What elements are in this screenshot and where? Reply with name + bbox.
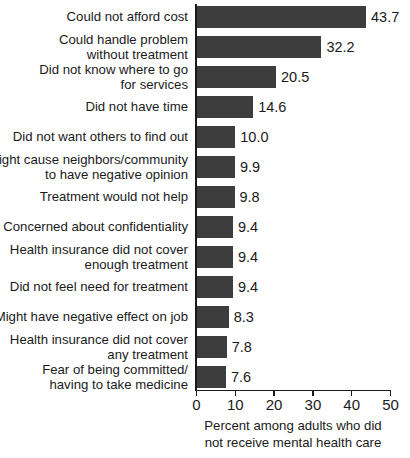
bar-category-label-line: Did not want others to find out — [13, 129, 188, 144]
bar-category-label: Did not know where to gofor services — [18, 62, 188, 92]
axis-caption-line-2: not receive mental health care — [195, 435, 391, 452]
bar — [197, 6, 367, 28]
bar-category-label-line: Fear of being committed/ — [42, 362, 188, 377]
bar-category-label: Could handle problemwithout treatment — [18, 32, 188, 62]
bar-row: Treatment would not help9.8 — [0, 182, 410, 212]
bar-row: Could handle problemwithout treatment32.… — [0, 32, 410, 62]
bar-value-label: 20.5 — [276, 62, 309, 92]
bar-category-label-line: Did not feel need for treatment — [10, 279, 188, 294]
bar-category-label-line: Treatment would not help — [40, 189, 188, 204]
bar-category-label-line: Did not have time — [85, 99, 188, 114]
bar-value-label: 8.3 — [229, 302, 254, 332]
bar-category-label-line: Might have negative effect on job — [0, 309, 188, 324]
bar-row: Health insurance did not coverenough tre… — [0, 242, 410, 272]
bar — [197, 336, 227, 358]
bar-category-label-line: Could not afford cost — [67, 9, 188, 24]
bar-row: Did not know where to gofor services20.5 — [0, 62, 410, 92]
bar — [197, 36, 322, 58]
bar-value-label: 9.4 — [233, 212, 258, 242]
bar-row: Could not afford cost43.7 — [0, 2, 410, 32]
bar-category-label-line: to have negative opinion — [45, 167, 188, 182]
bar-value-label: 9.4 — [233, 272, 258, 302]
bar-row: Did not want others to find out10.0 — [0, 122, 410, 152]
axis-caption-line-1: Percent among adults who did — [195, 418, 391, 435]
bar-value-label: 9.9 — [235, 152, 260, 182]
axis-tick-label: 50 — [382, 396, 399, 414]
bar-category-label: Did not feel need for treatment — [18, 272, 188, 302]
bar-value-label: 7.6 — [226, 362, 251, 392]
axis-tick-label: 20 — [266, 396, 283, 414]
axis-tick-label: 0 — [192, 396, 200, 414]
bar-row: Might have negative effect on job8.3 — [0, 302, 410, 332]
bar-category-label-line: enough treatment — [85, 257, 188, 272]
bar — [197, 276, 233, 298]
bar — [197, 66, 277, 88]
bar-category-label: Health insurance did not coverany treatm… — [18, 332, 188, 362]
bar-category-label-line: Might cause neighbors/community — [0, 152, 188, 167]
bar-row: Did not have time14.6 — [0, 92, 410, 122]
bar-category-label-line: any treatment — [107, 347, 188, 362]
bar-category-label-line: without treatment — [87, 47, 188, 62]
bar-category-label-line: for services — [121, 77, 188, 92]
bar — [197, 186, 235, 208]
bar-category-label-line: having to take medicine — [49, 377, 188, 392]
bar-value-label: 10.0 — [235, 122, 268, 152]
bar-value-label: 9.8 — [235, 182, 260, 212]
bar-category-label: Health insurance did not coverenough tre… — [18, 242, 188, 272]
bar-value-label: 43.7 — [366, 2, 399, 32]
bar-value-label: 7.8 — [227, 332, 252, 362]
bar — [197, 216, 233, 238]
bar — [197, 306, 229, 328]
bar-value-label: 14.6 — [253, 92, 286, 122]
bar-row: Did not feel need for treatment9.4 — [0, 272, 410, 302]
axis-tick-label: 10 — [227, 396, 244, 414]
bar — [197, 96, 254, 118]
bar-category-label-line: Health insurance did not cover — [10, 242, 188, 257]
bar-category-label: Might have negative effect on job — [18, 302, 188, 332]
bar-category-label: Did not have time — [18, 92, 188, 122]
bar-chart: Could not afford cost43.7Could handle pr… — [0, 0, 410, 458]
axis-tick-label: 40 — [343, 396, 360, 414]
bar-row: Concerned about confidentiality9.4 — [0, 212, 410, 242]
bar-category-label: Might cause neighbors/communityto have n… — [18, 152, 188, 182]
bar — [197, 246, 233, 268]
bar-category-label: Did not want others to find out — [18, 122, 188, 152]
bar-category-label: Treatment would not help — [18, 182, 188, 212]
bar-category-label: Fear of being committed/having to take m… — [18, 362, 188, 392]
bar-row: Health insurance did not coverany treatm… — [0, 332, 410, 362]
bar-row: Fear of being committed/having to take m… — [0, 362, 410, 392]
bar-category-label-line: Health insurance did not cover — [10, 332, 188, 347]
bar-value-label: 9.4 — [233, 242, 258, 272]
bar-row: Might cause neighbors/communityto have n… — [0, 152, 410, 182]
plot-area: Could not afford cost43.7Could handle pr… — [0, 0, 410, 392]
bar-category-label: Concerned about confidentiality — [18, 212, 188, 242]
axis-tick-label: 30 — [305, 396, 322, 414]
axis-caption: Percent among adults who did not receive… — [195, 418, 391, 451]
bar — [197, 126, 236, 148]
bar — [197, 156, 235, 178]
bar-category-label-line: Could handle problem — [59, 32, 188, 47]
bar-value-label: 32.2 — [321, 32, 354, 62]
bar-category-label-line: Did not know where to go — [39, 62, 188, 77]
bar — [197, 366, 226, 388]
bar-category-label-line: Concerned about confidentiality — [3, 219, 188, 234]
bar-category-label: Could not afford cost — [18, 2, 188, 32]
